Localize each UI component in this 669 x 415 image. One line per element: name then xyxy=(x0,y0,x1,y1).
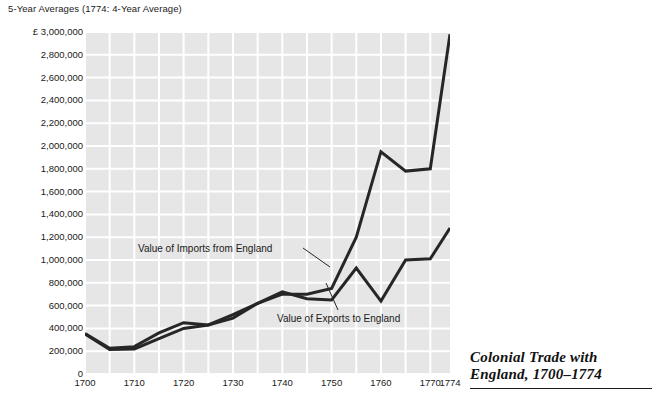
title-line-1: Colonial Trade with xyxy=(470,349,660,366)
series-label-imports: Value of Imports from England xyxy=(138,243,272,254)
series-label-exports: Value of Exports to England xyxy=(277,313,400,324)
title-line-2: England, 1700–1774 xyxy=(470,366,660,383)
page-title: Colonial Trade with England, 1700–1774 xyxy=(470,349,660,383)
chart-figure: 5-Year Averages (1774: 4-Year Average) £… xyxy=(0,0,669,415)
title-underline-rule xyxy=(470,388,652,389)
chart-title-block: Colonial Trade with England, 1700–1774 xyxy=(470,349,660,389)
